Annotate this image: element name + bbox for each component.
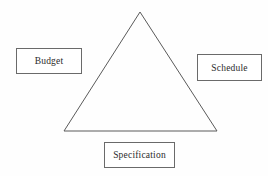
label-box-schedule: Schedule <box>197 54 262 81</box>
label-text-specification: Specification <box>113 150 166 160</box>
triangle-outline <box>64 12 217 131</box>
label-box-specification: Specification <box>104 142 175 168</box>
diagram-canvas: Budget Schedule Specification <box>0 0 268 176</box>
label-text-schedule: Schedule <box>211 63 247 73</box>
label-text-budget: Budget <box>35 56 64 66</box>
label-box-budget: Budget <box>16 48 82 74</box>
